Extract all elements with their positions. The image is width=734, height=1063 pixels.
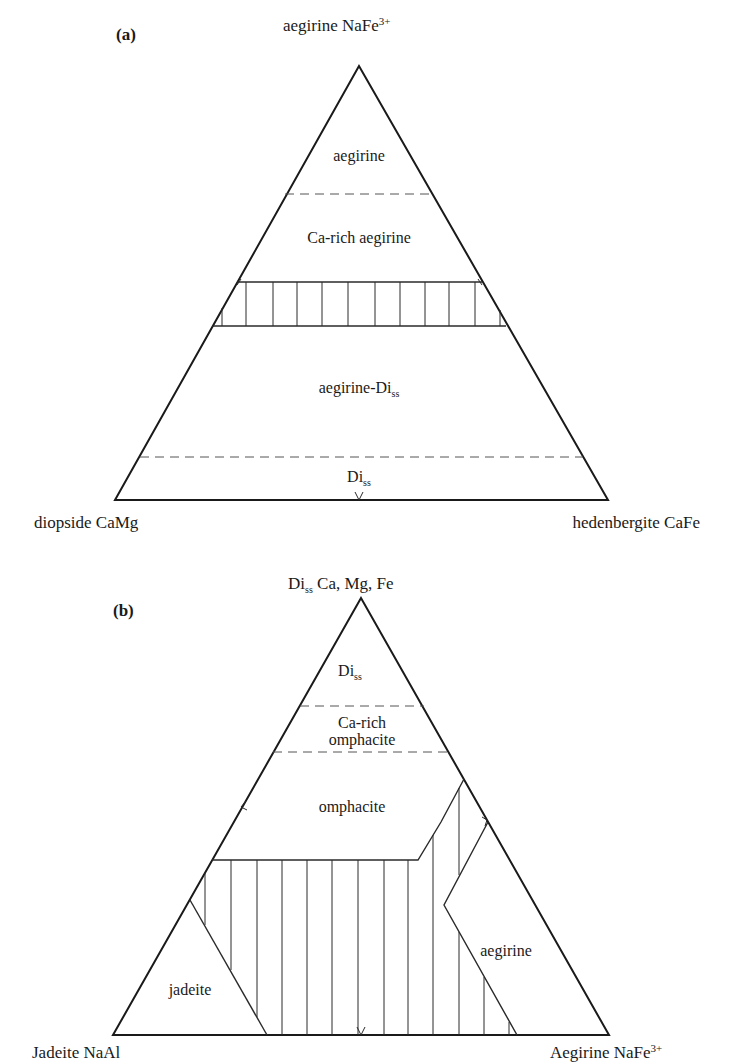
- region-ca-rich-omphacite-line2: omphacite: [329, 731, 396, 749]
- region-di-b: Diss: [338, 662, 362, 682]
- apex-label-a: aegirine NaFe3+: [283, 15, 391, 35]
- corner-label-aegirine: Aegirine NaFe3+: [550, 1042, 662, 1062]
- region-ca-rich-aegirine: Ca-rich aegirine: [307, 229, 411, 247]
- corner-label-diopside: diopside CaMg: [34, 513, 139, 532]
- figure-b: (b) Diss Ca, Mg, Fe: [32, 574, 662, 1062]
- pyroxene-ternary-diagrams: (a) aegirine NaFe3+ aegiri: [0, 0, 734, 1063]
- figure-a: (a) aegirine NaFe3+ aegiri: [34, 15, 700, 532]
- triangle-b: [113, 598, 609, 1035]
- region-omphacite: omphacite: [319, 798, 386, 816]
- region-di-a: Diss: [347, 468, 371, 488]
- apex-label-b: Diss Ca, Mg, Fe: [288, 574, 394, 595]
- panel-label-b: (b): [113, 601, 134, 620]
- tie-lines-a: [222, 279, 500, 326]
- panel-label-a: (a): [116, 25, 136, 44]
- region-ca-rich-omphacite-line1: Ca-rich: [338, 714, 386, 731]
- region-aegirine-di: aegirine-Diss: [319, 379, 400, 399]
- corner-label-jadeite: Jadeite NaAl: [32, 1043, 121, 1062]
- region-jadeite: jadeite: [168, 981, 212, 999]
- corner-label-hedenbergite: hedenbergite CaFe: [572, 513, 700, 532]
- triangle-a: [115, 66, 608, 500]
- omphacite-boundary: [212, 779, 464, 860]
- region-aegirine-b: aegirine: [480, 942, 532, 960]
- region-aegirine-a: aegirine: [333, 147, 385, 165]
- tie-lines-b: [205, 788, 509, 1035]
- arrow-mark-a: [355, 492, 363, 500]
- jadeite-boundary: [190, 900, 267, 1035]
